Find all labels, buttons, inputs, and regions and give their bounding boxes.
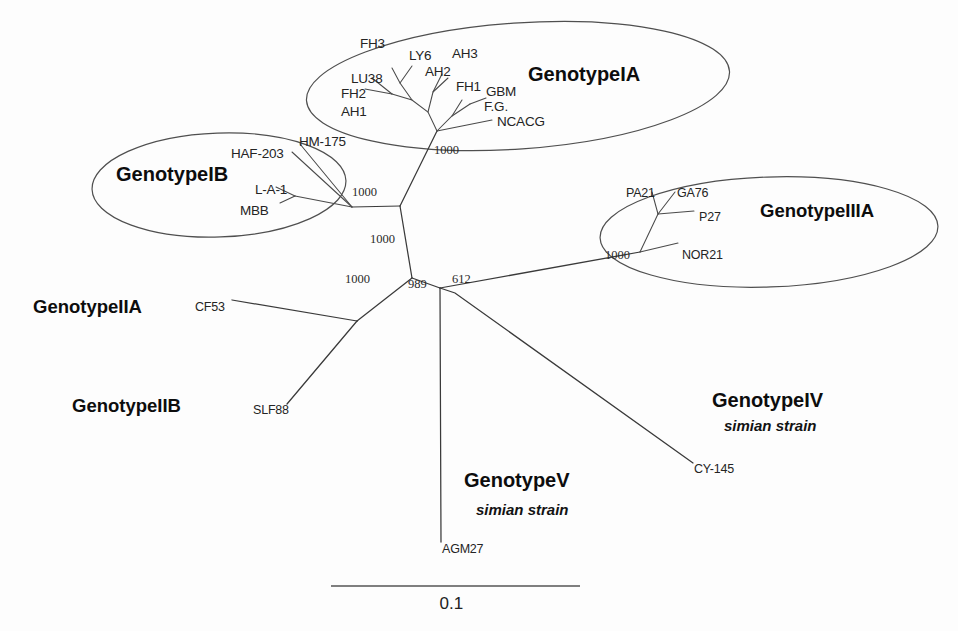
branch-iiia-2 <box>658 192 675 214</box>
genotype-label-iv: GenotypeIV <box>712 389 823 412</box>
taxon-label: CF53 <box>195 300 225 314</box>
taxon-label: HAF-203 <box>231 146 284 161</box>
branch-backbone-8 <box>232 300 357 321</box>
branch-ia-8 <box>452 100 462 116</box>
taxon-label: HM-175 <box>299 134 346 149</box>
taxon-label: PA21 <box>626 186 655 200</box>
branch-backbone-4 <box>440 288 441 542</box>
taxon-label: F.G. <box>484 99 508 114</box>
branch-backbone-1 <box>352 206 400 207</box>
taxon-label: GA76 <box>677 186 708 200</box>
taxon-label: GBM <box>486 84 516 99</box>
branch-backbone-9 <box>287 321 357 404</box>
branch-iiia-3 <box>658 211 694 214</box>
genotype-label-v: GenotypeV <box>464 469 570 492</box>
taxon-label: AGM27 <box>442 542 483 556</box>
branch-ib-4 <box>280 196 295 203</box>
taxon-label: P27 <box>699 210 721 224</box>
branch-ib-2 <box>295 196 352 207</box>
taxon-label: FH2 <box>341 86 366 101</box>
branch-ia-5 <box>428 74 442 112</box>
branch-backbone-2 <box>400 206 412 278</box>
taxon-label: AH2 <box>425 64 451 79</box>
branch-ia-0 <box>392 94 437 131</box>
genotype-sublabel-iv: simian strain <box>724 417 817 434</box>
scale-bar-label: 0.1 <box>440 594 464 614</box>
genotype-sublabel-v: simian strain <box>476 501 569 518</box>
genotype-group-ellipses <box>90 8 940 292</box>
bootstrap-value: 1000 <box>370 232 395 247</box>
phylogenetic-tree-figure: FH3LY6AH3LU38AH2FH1GBMFH2F.G.AH1NCACGHAF… <box>0 0 958 631</box>
taxon-label: L-A-1 <box>255 182 287 197</box>
taxon-label: LY6 <box>409 48 431 63</box>
taxon-label: FH3 <box>360 36 385 51</box>
tree-drawing-canvas <box>0 0 958 631</box>
branch-ia-4 <box>400 66 412 83</box>
branch-ia-10 <box>437 120 492 131</box>
branch-backbone-5 <box>440 288 693 463</box>
bootstrap-value: 1000 <box>605 248 630 263</box>
bootstrap-value: 1000 <box>352 185 377 200</box>
taxon-label: AH1 <box>341 104 367 119</box>
branch-backbone-0 <box>400 131 437 206</box>
branch-ia-6 <box>433 78 448 92</box>
branch-iiia-4 <box>640 243 678 252</box>
bootstrap-value: 1000 <box>434 143 459 158</box>
branch-iiia-0 <box>640 214 658 252</box>
genotype-label-iia: GenotypeIIA <box>33 296 142 318</box>
bootstrap-value: 989 <box>408 277 427 292</box>
taxon-label: NOR21 <box>682 248 723 262</box>
taxon-label: LU38 <box>351 71 382 86</box>
branch-ia-7 <box>437 104 470 131</box>
taxon-label: SLF88 <box>253 403 289 417</box>
branch-ia-1 <box>365 89 392 94</box>
taxon-label: NCACG <box>497 114 545 129</box>
genotype-label-ia: GenotypeIA <box>528 63 640 86</box>
taxon-label: CY-145 <box>694 462 734 476</box>
bootstrap-value: 612 <box>452 272 471 287</box>
taxon-label: FH1 <box>456 79 481 94</box>
genotype-label-iiia: GenotypeIIIA <box>760 200 874 222</box>
taxon-label: MBB <box>240 203 269 218</box>
bootstrap-value: 1000 <box>345 272 370 287</box>
genotype-label-iib: GenotypeIIB <box>72 395 181 417</box>
branch-ib-1 <box>292 152 352 207</box>
genotype-label-ib: GenotypeIB <box>116 163 228 186</box>
taxon-label: AH3 <box>452 46 478 61</box>
